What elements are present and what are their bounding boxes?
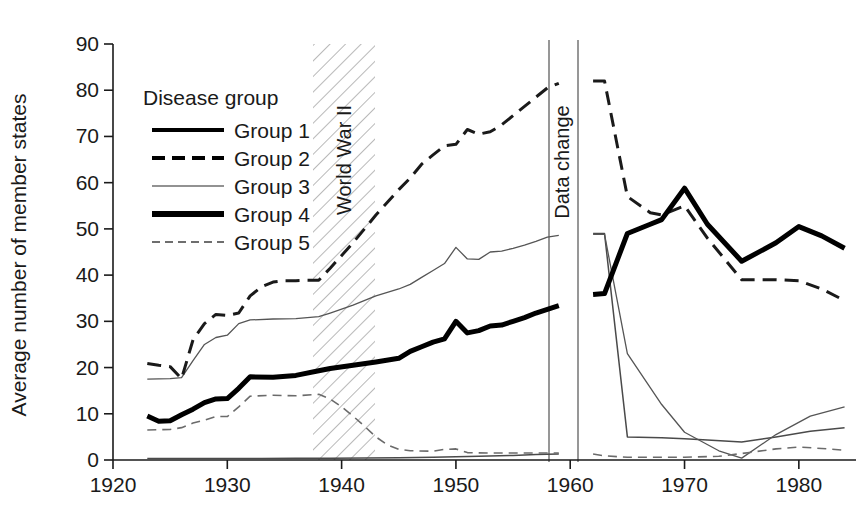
- x-tick-label: 1970: [661, 473, 708, 496]
- x-tick-label: 1960: [547, 473, 594, 496]
- y-tick-label: 40: [76, 263, 99, 286]
- world-war-ii-label: World War II: [333, 105, 355, 215]
- y-tick-label: 20: [76, 356, 99, 379]
- legend-label-group-1: Group 1: [234, 119, 310, 142]
- y-tick-label: 30: [76, 309, 99, 332]
- data-change-gap: Data change: [549, 40, 578, 462]
- y-tick-label: 80: [76, 78, 99, 101]
- legend-title: Disease group: [143, 86, 278, 109]
- y-tick-label: 0: [87, 448, 99, 471]
- chart-figure: World War II Data change 010203040506070…: [0, 0, 860, 510]
- x-tick-label: 1950: [433, 473, 480, 496]
- y-tick-label: 70: [76, 124, 99, 147]
- line-chart: World War II Data change 010203040506070…: [0, 0, 860, 510]
- legend-label-group-2: Group 2: [234, 147, 310, 170]
- x-tick-label: 1980: [775, 473, 822, 496]
- y-tick-label: 10: [76, 402, 99, 425]
- y-axis-title: Average number of member states: [7, 94, 30, 417]
- legend-label-group-3: Group 3: [234, 175, 310, 198]
- x-tick-label: 1940: [318, 473, 365, 496]
- y-tick-label: 90: [76, 32, 99, 55]
- x-tick-label: 1930: [204, 473, 251, 496]
- figure-background: [0, 0, 860, 510]
- legend-label-group-5: Group 5: [234, 231, 310, 254]
- y-tick-label: 50: [76, 217, 99, 240]
- x-tick-label: 1920: [90, 473, 137, 496]
- data-change-label: Data change: [551, 105, 573, 218]
- y-tick-label: 60: [76, 171, 99, 194]
- legend-label-group-4: Group 4: [234, 203, 310, 226]
